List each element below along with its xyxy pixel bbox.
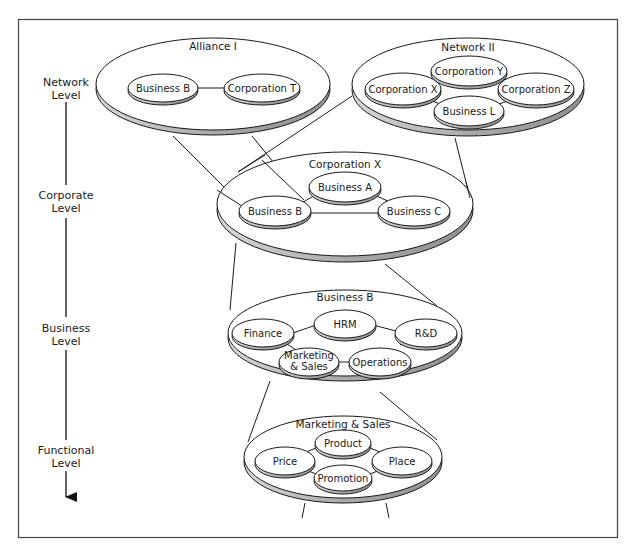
svg-text:Corporation T: Corporation T (228, 83, 297, 94)
alliance-title: Alliance I (189, 40, 237, 52)
network-title: Network II (441, 41, 494, 53)
node-business-finance: Finance (232, 319, 294, 350)
svg-text:Business A: Business A (318, 182, 372, 193)
node-business-hrm: HRM (314, 310, 376, 341)
svg-text:Business B: Business B (248, 206, 302, 217)
node-network-corporation-z: Corporation Z (498, 73, 574, 108)
corporation-title: Corporation X (309, 158, 382, 170)
node-functional-price: Price (255, 447, 315, 478)
functional-group: Marketing & Sales Product Price Place Pr… (244, 416, 442, 503)
corporation-group: Corporation X Business A Business B Busi… (217, 152, 473, 262)
svg-text:Business B: Business B (136, 83, 190, 94)
svg-text:Operations: Operations (353, 357, 408, 368)
svg-text:Business L: Business L (443, 106, 496, 117)
node-network-business-l: Business L (434, 96, 504, 129)
level-corporate-line1: Corporate (39, 189, 94, 202)
node-corporation-business-b: Business B (239, 196, 311, 229)
level-functional-line1: Functional (38, 444, 95, 457)
network-group: Network II Corporation X Corporation Y C… (352, 38, 584, 136)
svg-text:Corporation X: Corporation X (368, 84, 437, 95)
strategy-levels-diagram: Network Level Corporate Level Business L… (0, 0, 634, 556)
svg-text:& Sales: & Sales (290, 361, 328, 372)
level-functional-line2: Level (51, 457, 80, 470)
level-corporate-line2: Level (51, 202, 80, 215)
svg-text:Price: Price (273, 456, 297, 467)
node-network-corporation-x: Corporation X (365, 73, 441, 108)
node-functional-place: Place (372, 447, 432, 478)
svg-text:Place: Place (389, 456, 416, 467)
svg-text:Marketing: Marketing (284, 350, 334, 361)
svg-text:R&D: R&D (415, 328, 438, 339)
level-business-line1: Business (42, 322, 91, 335)
svg-text:Corporation Z: Corporation Z (501, 84, 570, 95)
svg-text:Promotion: Promotion (318, 473, 369, 484)
svg-text:Business C: Business C (387, 206, 441, 217)
level-network-line2: Level (51, 89, 80, 102)
business-title: Business B (317, 291, 374, 303)
node-network-corporation-y: Corporation Y (431, 56, 507, 89)
node-functional-product: Product (315, 430, 371, 459)
node-business-operations: Operations (349, 348, 411, 379)
node-alliance-business-b: Business B (128, 74, 198, 105)
level-business-line2: Level (51, 335, 80, 348)
node-business-marketing-sales: Marketing & Sales (279, 348, 339, 379)
level-network-line1: Network (43, 76, 90, 89)
node-corporation-business-a: Business A (309, 172, 381, 205)
svg-text:Corporation Y: Corporation Y (435, 66, 504, 77)
node-alliance-corporation-t: Corporation T (224, 74, 300, 105)
node-functional-promotion: Promotion (314, 465, 372, 494)
svg-text:HRM: HRM (333, 319, 356, 330)
node-business-rd: R&D (395, 319, 457, 350)
alliance-group: Alliance I Business B Corporation T (96, 38, 330, 135)
node-corporation-business-c: Business C (378, 196, 450, 229)
business-group: Business B Finance HRM R&D Marketing (228, 290, 462, 381)
svg-text:Product: Product (324, 438, 362, 449)
functional-title: Marketing & Sales (295, 418, 390, 430)
svg-text:Finance: Finance (244, 328, 282, 339)
